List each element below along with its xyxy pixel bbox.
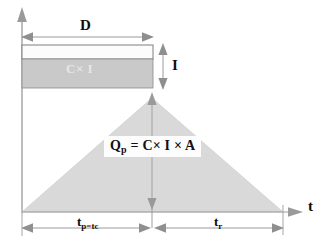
intensity-dimension-line — [158, 43, 167, 90]
time-to-peak-label: tp=tc — [77, 215, 98, 228]
duration-arrow-right — [142, 32, 154, 42]
tr-arrow-left — [154, 223, 166, 233]
peak-arrow-up — [147, 92, 156, 105]
peak-discharge-formula: Qp = C× I × A — [104, 136, 201, 157]
hydrograph-figure: D I C× I Qp = C× I × A tp=tc tr t — [0, 0, 334, 250]
formula-q-subscript: p — [121, 144, 127, 155]
discharge-axis-arrowhead — [17, 7, 27, 22]
duration-arrow-left — [21, 32, 33, 42]
block-ci-label: C× I — [66, 62, 93, 75]
tp-arrow-right — [139, 223, 151, 233]
time-axis-arrowhead — [288, 207, 303, 217]
tr-arrow-right — [272, 223, 284, 233]
tp-sub2: c — [94, 221, 98, 231]
intensity-label: I — [172, 58, 178, 73]
recession-time-label: tr — [214, 215, 222, 228]
formula-rest: = C× I × A — [127, 138, 196, 153]
rainfall-block-upper — [22, 45, 153, 59]
duration-label: D — [80, 18, 91, 33]
formula-q: Q — [110, 138, 121, 153]
tp-sub: p=t — [81, 221, 94, 231]
tp-arrow-left — [21, 223, 33, 233]
tr-sub: r — [218, 221, 222, 231]
time-axis-label: t — [308, 199, 313, 214]
figure-canvas — [0, 0, 334, 250]
intensity-arrow-down — [158, 78, 167, 90]
duration-dimension-line — [21, 32, 154, 42]
intensity-arrow-up — [158, 43, 167, 55]
